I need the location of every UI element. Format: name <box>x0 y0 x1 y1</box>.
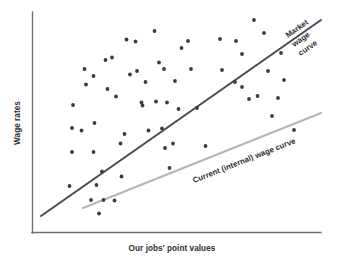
scatter-point <box>134 40 138 44</box>
scatter-point <box>92 150 96 154</box>
scatter-point <box>240 85 244 89</box>
scatter-point <box>195 106 199 110</box>
scatter-point <box>110 56 114 60</box>
scatter-point <box>252 18 256 22</box>
y-axis-title-group: Wage rates <box>13 101 22 145</box>
scatter-point <box>173 79 177 83</box>
scatter-point <box>177 107 181 111</box>
scatter-point <box>104 58 108 62</box>
scatter-point <box>256 94 260 98</box>
scatter-point <box>234 39 238 43</box>
scatter-point <box>189 67 193 71</box>
scatter-point <box>114 95 118 99</box>
scatter-point <box>144 80 148 84</box>
scatter-point <box>180 46 184 50</box>
scatter-point <box>106 87 110 91</box>
scatter-point <box>247 97 251 101</box>
scatter-point <box>135 69 139 73</box>
scatter-point <box>83 67 87 71</box>
scatter-point <box>113 199 117 203</box>
scatter-point <box>162 67 166 71</box>
scatter-point <box>262 31 266 35</box>
scatter-point <box>204 144 208 148</box>
scatter-point <box>80 129 84 133</box>
scatter-point <box>266 69 270 73</box>
scatter-point <box>125 38 129 42</box>
scatter-point <box>292 128 296 132</box>
x-axis-title: Our jobs' point values <box>129 244 216 253</box>
scatter-point <box>120 175 124 179</box>
scatter-point <box>128 73 132 77</box>
scatter-point <box>123 132 127 136</box>
scatter-point <box>92 74 96 78</box>
scatter-point <box>100 170 104 174</box>
scatter-point <box>240 52 244 56</box>
scatter-point <box>233 80 237 84</box>
scatter-point <box>89 198 93 202</box>
scatter-point <box>102 198 106 202</box>
scatter-point <box>157 61 161 65</box>
scatter-point <box>186 39 190 43</box>
scatter-point <box>71 103 75 107</box>
scatter-point <box>168 166 172 170</box>
y-axis-title: Wage rates <box>13 101 22 145</box>
scatter-point <box>220 68 224 72</box>
scatter-point <box>282 78 286 82</box>
scatter-point <box>160 127 164 131</box>
scatter-point <box>270 114 274 118</box>
scatter-point <box>163 146 167 150</box>
scatter-point <box>95 183 99 187</box>
scatter-point <box>141 104 145 108</box>
scatter-point <box>93 121 97 125</box>
scatter-point <box>84 83 88 87</box>
scatter-point <box>154 100 158 104</box>
scatter-point <box>276 96 280 100</box>
scatter-point <box>171 142 175 146</box>
scatter-point <box>147 129 151 133</box>
chart-canvas: Market wage curve Current (internal) wag… <box>0 0 346 265</box>
scatter-point <box>153 29 157 33</box>
scatter-point <box>70 126 74 130</box>
scatter-point <box>97 212 101 216</box>
wage-curve-chart: Market wage curve Current (internal) wag… <box>0 0 346 265</box>
scatter-point <box>68 184 72 188</box>
scatter-point <box>218 37 222 41</box>
scatter-point <box>165 101 169 105</box>
scatter-point <box>70 150 74 154</box>
scatter-point <box>279 51 283 55</box>
scatter-point <box>119 142 123 146</box>
